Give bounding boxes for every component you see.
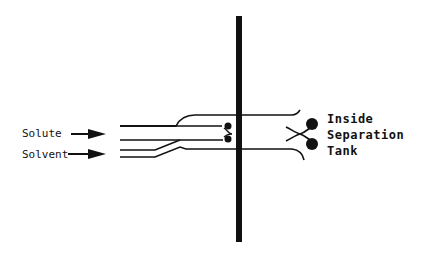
- diagram-canvas: Solute Solvent Inside Separation Tank: [0, 0, 433, 255]
- tank-wall: [236, 16, 242, 242]
- solvent-tube-top: [120, 140, 180, 150]
- outlet-stream-top: [286, 127, 310, 134]
- outlet-droplets-icon: [306, 118, 318, 150]
- solute-arrow-icon: [71, 129, 106, 139]
- outlet-stream-bottom: [286, 134, 310, 141]
- tank-label-line-1: Inside: [327, 111, 373, 127]
- inner-droplets-icon: [224, 123, 232, 143]
- nozzle-outer-top: [120, 110, 300, 126]
- tank-label-line-3: Tank: [327, 143, 358, 159]
- solvent-arrow-icon: [68, 149, 106, 159]
- solute-label: Solute: [22, 127, 62, 140]
- nozzle-outer-bottom: [120, 147, 304, 160]
- tank-label-line-2: Separation: [327, 127, 404, 143]
- solvent-label: Solvent: [22, 148, 68, 161]
